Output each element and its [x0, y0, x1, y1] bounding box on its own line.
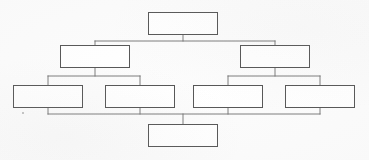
node-level2-right[interactable]: [240, 45, 310, 68]
node-level3-b[interactable]: [105, 85, 175, 108]
node-level2-left[interactable]: [60, 45, 130, 68]
scan-speck-icon: [22, 112, 24, 114]
diagram-canvas: [0, 0, 369, 160]
node-root[interactable]: [148, 12, 218, 35]
node-level3-c[interactable]: [193, 85, 263, 108]
node-level3-a[interactable]: [13, 85, 83, 108]
node-level3-d[interactable]: [285, 85, 355, 108]
node-bottom[interactable]: [148, 124, 218, 147]
